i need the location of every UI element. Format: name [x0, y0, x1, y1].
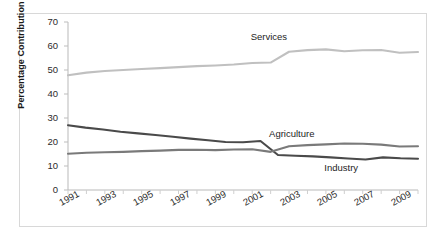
y-tick-label: 50 — [32, 64, 58, 75]
series-line-agriculture — [68, 143, 418, 153]
series-line-services — [68, 49, 418, 75]
series-label-services: Services — [251, 31, 287, 42]
y-tick-label: 40 — [32, 88, 58, 99]
y-tick-label: 10 — [32, 160, 58, 171]
y-tick-label: 60 — [32, 40, 58, 51]
y-tick-label: 0 — [32, 184, 58, 195]
y-tick-label: 20 — [32, 136, 58, 147]
y-tick-marks — [64, 22, 68, 190]
y-axis-title: Percentage Contribution — [16, 0, 26, 120]
y-tick-label: 70 — [32, 16, 58, 27]
chart-page: Percentage Contribution 010203040506070 … — [0, 0, 444, 240]
y-tick-label: 30 — [32, 112, 58, 123]
series-line-industry — [68, 125, 418, 159]
series-lines — [68, 49, 418, 159]
series-label-agriculture: Agriculture — [269, 128, 314, 139]
series-label-industry: Industry — [324, 162, 358, 173]
